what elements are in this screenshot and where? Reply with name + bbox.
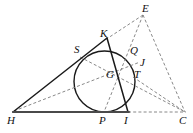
segment-T-C [133,77,185,112]
point-label-Q: Q [130,45,138,56]
point-label-K: K [100,28,107,39]
geometry-canvas [0,0,193,133]
geometry-figure: H P I C S K Q E J T G [0,0,193,133]
point-label-S: S [74,44,80,55]
side-H-K [13,38,107,112]
point-label-E: E [142,3,149,14]
point-label-T: T [134,69,140,80]
point-label-I: I [124,115,128,126]
point-label-P: P [99,115,106,126]
point-label-H: H [7,115,15,126]
point-label-G: G [106,69,114,80]
point-label-J: J [140,57,145,68]
point-label-C: C [179,115,186,126]
cevian-E-K [105,15,143,40]
